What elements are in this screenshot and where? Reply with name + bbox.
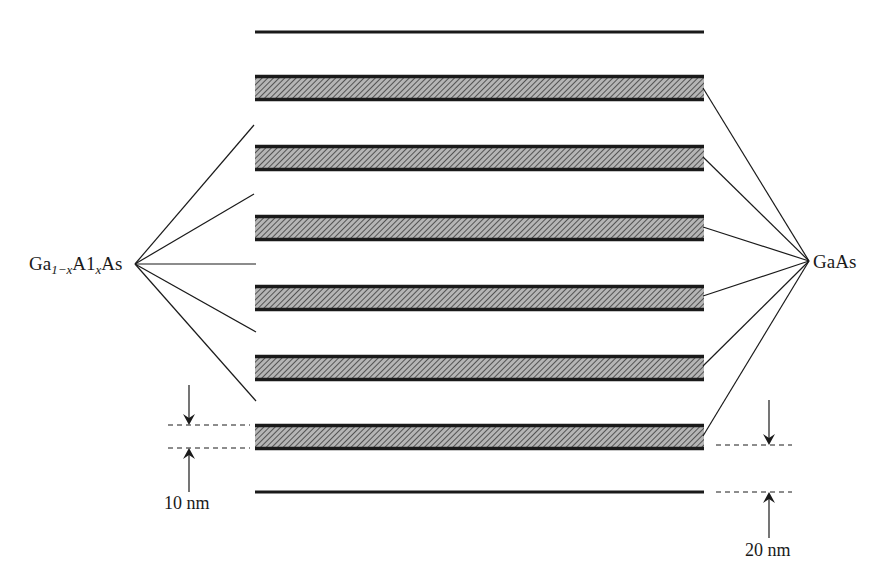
gaas-label: GaAs: [813, 252, 856, 271]
label-as: As: [101, 253, 122, 274]
gaas-band: [255, 145, 704, 171]
dimension-20nm: [716, 400, 792, 538]
dimension-10nm-label: 10 nm: [164, 494, 210, 512]
label-sub-1-x: 1−x: [51, 262, 72, 277]
dimension-10nm: [168, 385, 250, 492]
right-pointer-lines: [703, 88, 809, 436]
gaas-bands: [255, 75, 704, 450]
left-pointer-lines: [135, 125, 256, 401]
gaas-band: [255, 355, 704, 381]
gaas-band: [255, 75, 704, 101]
label-al: A1: [72, 253, 95, 274]
dimension-20nm-label: 20 nm: [745, 541, 791, 559]
gaas-band: [255, 215, 704, 241]
gaas-band: [255, 424, 704, 450]
algaas-label: Ga1−xA1xAs: [29, 254, 122, 276]
label-ga: Ga: [29, 253, 51, 274]
gaas-band: [255, 285, 704, 311]
superlattice-diagram: [0, 0, 888, 587]
